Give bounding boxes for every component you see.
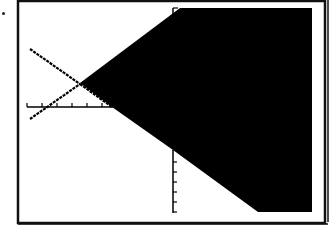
inequality-graph	[0, 0, 336, 227]
increasing-boundary-line	[30, 84, 80, 119]
decreasing-boundary-line	[30, 49, 80, 84]
graph-screen	[0, 0, 336, 227]
shaded-region	[80, 8, 312, 212]
